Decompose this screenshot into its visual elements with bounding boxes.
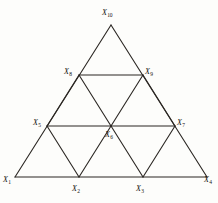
edge-diagonal-x3-x6 <box>143 126 175 177</box>
vertex-label-x1-subscript: 1 <box>8 179 11 185</box>
vertex-label-x9: X9 <box>145 68 153 77</box>
vertex-label-x6: X6 <box>105 131 113 140</box>
edge-diagonal-x9-x7 <box>143 75 175 126</box>
edge-diagonal-x6-x3 <box>111 126 143 177</box>
vertex-label-x3-subscript: 3 <box>141 188 144 194</box>
vertex-label-x8-subscript: 8 <box>69 71 72 77</box>
vertex-label-x4: X4 <box>204 176 212 185</box>
vertex-label-x5-subscript: 5 <box>38 122 41 128</box>
vertex-label-x8: X8 <box>64 68 72 77</box>
edge-diagonal-x2-x8 <box>47 126 79 177</box>
edge-diagonal-x5-x8 <box>47 75 79 126</box>
vertex-label-x2: X2 <box>72 185 80 194</box>
triangular-lattice-diagram <box>0 0 218 203</box>
vertex-label-x10-subscript: 10 <box>107 12 113 18</box>
vertex-label-x7: X7 <box>177 119 185 128</box>
vertex-label-x6-subscript: 6 <box>110 134 113 140</box>
vertex-label-x1: X1 <box>3 176 11 185</box>
vertex-label-x3: X3 <box>136 185 144 194</box>
vertex-label-x5: X5 <box>33 119 41 128</box>
edge-diagonal-x5-x8-upper <box>79 75 111 126</box>
figure-container: X10 X8 X9 X5 X6 X7 X1 X2 X3 X4 <box>0 0 218 203</box>
edge-diagonal-x6-x9 <box>111 75 143 126</box>
vertex-label-x2-subscript: 2 <box>77 188 80 194</box>
vertex-label-x9-subscript: 9 <box>150 71 153 77</box>
vertex-label-x10: X10 <box>102 9 112 18</box>
vertex-label-x7-subscript: 7 <box>182 122 185 128</box>
vertex-label-x4-subscript: 4 <box>209 179 212 185</box>
